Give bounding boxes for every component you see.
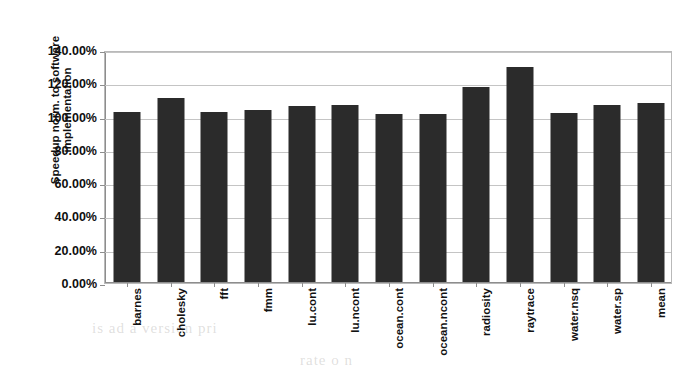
- bar-slot: [280, 52, 324, 283]
- y-tick-label: 140.00%: [7, 44, 97, 58]
- x-tick-mark: [607, 283, 608, 287]
- bar[interactable]: [201, 112, 228, 283]
- y-tick-label: 40.00%: [7, 210, 97, 224]
- bar-slot: [498, 52, 542, 283]
- x-tick-mark: [302, 283, 303, 287]
- bar[interactable]: [288, 106, 315, 283]
- x-tick-mark: [345, 283, 346, 287]
- x-tick-label: barnes: [131, 288, 143, 326]
- bar[interactable]: [375, 114, 402, 283]
- bar-series: [105, 52, 671, 283]
- y-tick-label: 20.00%: [7, 244, 97, 258]
- bar-slot: [411, 52, 455, 283]
- x-tick-label: mean: [655, 288, 667, 318]
- x-tick-label: water.sp: [611, 288, 623, 334]
- bar-slot: [586, 52, 630, 283]
- x-tick-mark: [564, 283, 565, 287]
- x-tick-mark: [127, 283, 128, 287]
- y-tick-mark: [100, 285, 105, 286]
- x-tick-mark: [433, 283, 434, 287]
- x-tick-label: cholesky: [175, 288, 187, 337]
- x-tick-label: water.nsq: [568, 288, 580, 341]
- bar[interactable]: [332, 105, 359, 283]
- bar[interactable]: [638, 103, 665, 283]
- bar[interactable]: [507, 67, 534, 283]
- x-tick-label: ocean.ncont: [437, 288, 449, 356]
- x-tick-mark: [476, 283, 477, 287]
- x-tick-label: lu.cont: [306, 288, 318, 326]
- x-axis-tick-labels: barnescholeskyfftfmmlu.contlu.ncontocean…: [104, 288, 672, 378]
- x-tick-label: fft: [218, 288, 230, 300]
- bar-slot: [629, 52, 673, 283]
- bar[interactable]: [157, 98, 184, 283]
- bar[interactable]: [113, 112, 140, 283]
- x-tick-label: fmm: [262, 288, 274, 312]
- bar-slot: [367, 52, 411, 283]
- bar[interactable]: [244, 110, 271, 283]
- bar[interactable]: [550, 113, 577, 283]
- y-tick-label: 100.00%: [7, 111, 97, 125]
- bar[interactable]: [419, 114, 446, 283]
- y-tick-label: 60.00%: [7, 177, 97, 191]
- x-tick-mark: [389, 283, 390, 287]
- bar-slot: [149, 52, 193, 283]
- x-tick-label: raytrace: [524, 288, 536, 333]
- x-tick-mark: [171, 283, 172, 287]
- y-tick-label: 80.00%: [7, 144, 97, 158]
- x-axis-baseline: [105, 282, 671, 283]
- y-tick-label: 0.00%: [7, 277, 97, 291]
- x-tick-label: lu.ncont: [349, 288, 361, 333]
- plot-area: [104, 51, 672, 284]
- bar-slot: [105, 52, 149, 283]
- bar-slot: [323, 52, 367, 283]
- x-tick-label: radiosity: [480, 288, 492, 336]
- bar-slot: [542, 52, 586, 283]
- x-tick-mark: [214, 283, 215, 287]
- bar-slot: [455, 52, 499, 283]
- x-tick-mark: [520, 283, 521, 287]
- x-tick-label: ocean.cont: [393, 288, 405, 349]
- bar-slot: [236, 52, 280, 283]
- y-tick-label: 120.00%: [7, 77, 97, 91]
- bar-slot: [192, 52, 236, 283]
- x-tick-mark: [258, 283, 259, 287]
- x-tick-mark: [651, 283, 652, 287]
- bar[interactable]: [463, 87, 490, 283]
- bar[interactable]: [594, 105, 621, 283]
- bar-chart: Speedup norm. to software implementation…: [0, 0, 699, 379]
